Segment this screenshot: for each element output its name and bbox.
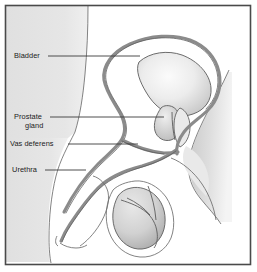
anatomy-diagram-canvas: Bladder Prostate gland Vas deferens Uret… <box>0 0 257 272</box>
label-bladder: Bladder <box>14 51 40 60</box>
label-prostate-gland-line2: gland <box>25 121 43 130</box>
anatomy-figure: Bladder Prostate gland Vas deferens Uret… <box>0 0 257 272</box>
label-vas-deferens: Vas deferens <box>10 139 54 148</box>
label-urethra: Urethra <box>12 165 38 174</box>
label-prostate-gland-line1: Prostate <box>14 112 42 121</box>
